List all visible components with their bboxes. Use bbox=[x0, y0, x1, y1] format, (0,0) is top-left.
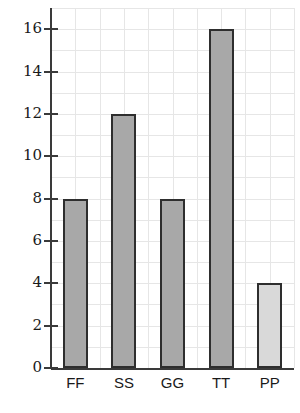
y-tick-mark bbox=[44, 155, 58, 157]
y-tick-mark bbox=[44, 325, 58, 327]
y-tick-mark bbox=[44, 113, 58, 115]
bar-ff bbox=[63, 199, 88, 368]
x-axis-tick-label-ss: SS bbox=[100, 375, 149, 390]
x-axis-tick-label-gg: GG bbox=[148, 375, 197, 390]
x-axis-tick-label-ff: FF bbox=[51, 375, 100, 390]
y-tick-label-wrap: 8 bbox=[0, 191, 42, 207]
y-axis-tick-label: 8 bbox=[4, 191, 42, 206]
y-tick-mark bbox=[44, 198, 58, 200]
y-tick-mark bbox=[44, 71, 58, 73]
y-axis-tick-label: 10 bbox=[4, 148, 42, 163]
y-axis-tick-label: 14 bbox=[4, 64, 42, 79]
bar-gg bbox=[160, 199, 185, 368]
y-tick-mark bbox=[44, 240, 58, 242]
y-tick-mark bbox=[44, 28, 58, 30]
y-tick-mark bbox=[44, 367, 58, 369]
y-axis-tick-label: 4 bbox=[4, 275, 42, 290]
y-tick-label-wrap: 16 bbox=[0, 21, 42, 37]
gridline-vertical bbox=[148, 8, 149, 368]
bar-pp bbox=[257, 283, 282, 368]
plot-area bbox=[51, 8, 294, 368]
y-tick-label-wrap: 2 bbox=[0, 318, 42, 334]
y-tick-label-wrap: 10 bbox=[0, 148, 42, 164]
y-tick-label-wrap: 4 bbox=[0, 275, 42, 291]
bar-tt bbox=[209, 29, 234, 368]
gridline-vertical bbox=[294, 8, 295, 368]
x-axis-tick-label-pp: PP bbox=[245, 375, 294, 390]
y-axis-tick-label: 12 bbox=[4, 106, 42, 121]
bar-chart: 0246810121416 FFSSGGTTPP bbox=[0, 0, 300, 413]
y-axis-tick-label: 6 bbox=[4, 233, 42, 248]
gridline-vertical bbox=[197, 8, 198, 368]
x-axis-line bbox=[51, 368, 294, 370]
y-axis-tick-label: 16 bbox=[4, 21, 42, 36]
gridline-vertical bbox=[100, 8, 101, 368]
y-axis-tick-label: 2 bbox=[4, 318, 42, 333]
y-tick-label-wrap: 14 bbox=[0, 64, 42, 80]
y-tick-mark bbox=[44, 282, 58, 284]
bar-ss bbox=[111, 114, 136, 368]
gridline-vertical bbox=[245, 8, 246, 368]
y-tick-label-wrap: 6 bbox=[0, 233, 42, 249]
y-axis-tick-label: 0 bbox=[4, 360, 42, 375]
y-tick-label-wrap: 0 bbox=[0, 360, 42, 376]
y-tick-label-wrap: 12 bbox=[0, 106, 42, 122]
y-axis-line bbox=[50, 8, 52, 369]
x-axis-tick-label-tt: TT bbox=[197, 375, 246, 390]
